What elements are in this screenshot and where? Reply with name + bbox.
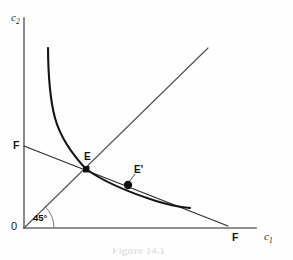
e-prime-leader-line — [129, 174, 135, 182]
figure-caption-strip: Figure 14.1 — [0, 248, 293, 260]
origin-label: 0 — [11, 221, 17, 232]
angle-label: 45° — [33, 213, 47, 223]
point-e-prime-label: E' — [134, 165, 143, 175]
y-axis-label-sub: 2 — [16, 17, 20, 26]
y-axis-label: c2 — [11, 12, 20, 26]
point-e-label: E — [84, 152, 91, 162]
budget-line-right-endpoint-label: F — [232, 232, 238, 243]
point-e-prime-marker — [124, 181, 132, 189]
figure-caption: Figure 14.1 — [112, 248, 165, 256]
figure-container: c2 c1 0 45° F F E E' Figure 14.1 — [0, 0, 293, 260]
forty-five-degree-ray — [24, 48, 208, 228]
x-axis-label: c1 — [264, 231, 273, 245]
budget-line-left-endpoint-label: F — [13, 140, 19, 151]
x-axis-label-sub: 1 — [269, 236, 273, 245]
point-e-marker — [83, 166, 89, 172]
